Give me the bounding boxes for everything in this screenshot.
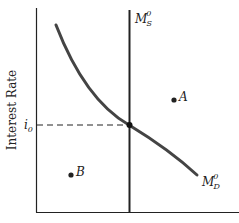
money-supply-label: M0S bbox=[134, 9, 152, 28]
y-axis-label: Interest Rate bbox=[5, 70, 19, 150]
point-a-label: A bbox=[178, 90, 188, 104]
point-b-marker bbox=[68, 172, 73, 177]
equilibrium-point bbox=[127, 122, 133, 128]
point-a-marker bbox=[171, 97, 176, 102]
equilibrium-rate-label: i0 bbox=[24, 118, 33, 134]
money-demand-label: M0D bbox=[201, 172, 220, 191]
money-market-diagram: Interest Rate i0 M0S M0D A B bbox=[0, 0, 239, 223]
point-b-label: B bbox=[75, 165, 85, 179]
